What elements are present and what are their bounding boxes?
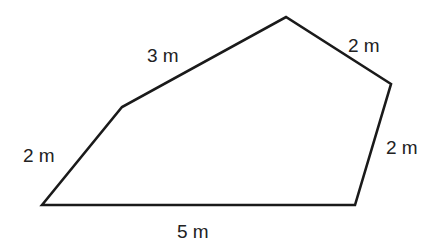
side-label-top-right: 2 m xyxy=(348,35,380,56)
side-label-right: 2 m xyxy=(386,137,418,158)
pentagon-shape xyxy=(42,17,391,205)
side-label-top-left: 3 m xyxy=(147,45,179,66)
side-label-bottom: 5 m xyxy=(177,221,209,242)
side-label-left: 2 m xyxy=(23,145,55,166)
pentagon-diagram: 3 m 2 m 2 m 2 m 5 m xyxy=(0,0,448,248)
